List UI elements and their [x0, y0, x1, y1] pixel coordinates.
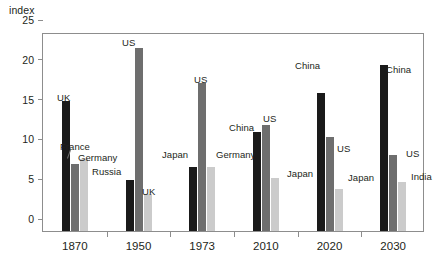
bar-label-us: US — [337, 143, 350, 154]
bar-label-us: US — [263, 113, 276, 124]
bar-label-us: US — [406, 148, 419, 159]
y-tick-mark — [38, 99, 43, 100]
bar-2010-US — [262, 125, 270, 231]
bar-label-uk: UK — [57, 92, 70, 103]
x-axis-separator — [234, 231, 235, 237]
bar-1950-UK — [144, 194, 152, 231]
bar-group-2010 — [253, 34, 279, 231]
x-axis-separator — [107, 231, 108, 237]
x-tick-1950: 1950 — [126, 231, 152, 252]
x-tick-2010: 2010 — [253, 231, 279, 252]
bar-2030-India — [398, 182, 406, 231]
bar-group-1973 — [189, 34, 215, 231]
y-tick-20: 20 — [22, 54, 43, 66]
y-tick-mark — [38, 59, 43, 60]
bar-1973-Japan — [189, 167, 197, 231]
y-tick-15: 15 — [22, 94, 43, 106]
bar-2020-US — [326, 137, 334, 231]
bar-label-russia: Russia — [92, 166, 121, 177]
y-tick-mark — [38, 219, 43, 220]
x-axis-separator — [170, 231, 171, 237]
bar-label-china: China — [295, 60, 320, 71]
bar-1950-Russia — [126, 180, 134, 231]
bar-label-china: China — [386, 64, 411, 75]
bar-group-1950 — [126, 34, 152, 231]
bar-1973-Germany — [207, 167, 215, 231]
bar-1973-US — [198, 83, 206, 231]
bar-label-germany: Germany — [216, 149, 255, 160]
x-tick-2030: 2030 — [380, 231, 406, 252]
bar-label-us: US — [122, 37, 135, 48]
x-tick-2020: 2020 — [317, 231, 343, 252]
bar-2010-China — [253, 132, 261, 232]
bar-1870-Germany — [80, 159, 88, 231]
x-axis-separator — [298, 231, 299, 237]
x-tick-1870: 1870 — [62, 231, 88, 252]
y-tick-mark — [38, 179, 43, 180]
bar-group-2020 — [317, 34, 343, 231]
bar-label-france: France — [60, 141, 90, 152]
bar-label-japan: Japan — [162, 149, 188, 160]
x-tick-1973: 1973 — [189, 231, 215, 252]
bar-label-japan: Japan — [348, 172, 374, 183]
bar-label-us: US — [194, 74, 207, 85]
x-axis-separator — [361, 231, 362, 237]
y-tick-mark — [38, 139, 43, 140]
bar-chart: index 0510152025 18701950197320102020203… — [0, 0, 444, 257]
bar-label-uk: UK — [142, 186, 155, 197]
bar-2010-Japan — [271, 178, 279, 231]
y-tick-10: 10 — [22, 133, 43, 145]
bar-label-china: China — [229, 122, 254, 133]
bar-1870-France — [71, 164, 79, 231]
bar-2030-China — [380, 65, 388, 231]
y-tick-5: 5 — [28, 173, 43, 185]
y-tick-0: 0 — [28, 213, 43, 225]
bar-1870-UK — [62, 101, 70, 231]
bar-group-1870 — [62, 34, 88, 231]
bar-2030-US — [389, 155, 397, 231]
bar-label-germany: Germany — [78, 152, 117, 163]
bar-1950-US — [135, 48, 143, 231]
bar-label-india: India — [411, 171, 432, 182]
y-tick-25: 25 — [22, 14, 43, 26]
bar-2020-Japan — [335, 189, 343, 231]
bar-2020-China — [317, 93, 325, 231]
y-tick-mark — [38, 20, 43, 21]
bar-label-japan: Japan — [287, 168, 313, 179]
